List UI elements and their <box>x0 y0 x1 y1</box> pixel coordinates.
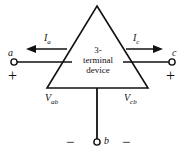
polarity-minus-left: − <box>66 135 74 150</box>
terminal-label-b: b <box>104 136 109 146</box>
current-arrow-c-head <box>153 45 163 53</box>
current-label-c: Ic <box>133 33 139 46</box>
polarity-plus-c: + <box>166 68 175 84</box>
current-subscript-c: c <box>136 38 139 46</box>
voltage-label-ab: Vab <box>45 93 58 106</box>
current-subscript-a: a <box>47 38 51 46</box>
device-label-line2: terminal <box>63 55 133 65</box>
terminal-node-c <box>169 59 175 65</box>
diagram-vector-layer <box>0 0 188 156</box>
polarity-plus-a: + <box>8 68 17 84</box>
voltage-subscript-ab: ab <box>51 98 58 106</box>
terminal-label-a: a <box>8 48 13 58</box>
terminal-label-c: c <box>172 48 176 58</box>
circuit-diagram-figure: 3- terminal device a c b Ia Ic Vab Vcb +… <box>0 0 188 156</box>
device-label-line1: 3- <box>63 45 133 55</box>
polarity-minus-right: − <box>122 135 130 150</box>
voltage-subscript-cb: cb <box>130 98 137 106</box>
current-arrow-a-head <box>26 45 36 53</box>
voltage-label-cb: Vcb <box>124 93 137 106</box>
terminal-node-a <box>11 59 17 65</box>
device-label-line3: device <box>63 65 133 75</box>
current-label-a: Ia <box>44 33 51 46</box>
terminal-node-b <box>94 139 100 145</box>
device-label: 3- terminal device <box>63 45 133 75</box>
